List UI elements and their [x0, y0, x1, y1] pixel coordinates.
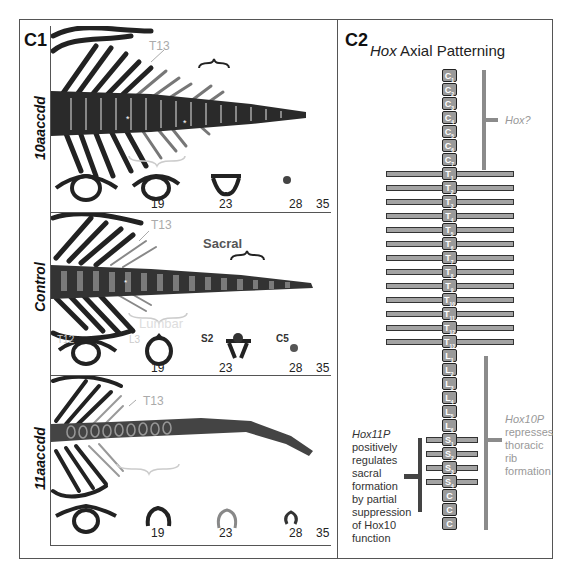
hox10p-annotation: Hox10P represses thoracic rib formation — [505, 413, 553, 478]
section-number: 28 — [289, 361, 302, 375]
vertebra-cervical: C1 — [442, 69, 457, 82]
label-lumbar: Lumbar — [139, 316, 183, 331]
vertebra-cervical: C5 — [442, 125, 457, 138]
vertebra-caudal: C — [442, 489, 457, 502]
hox11p-line: function — [352, 532, 411, 545]
genotype-label-11aaccdd: 11aaccdd — [32, 427, 48, 490]
section-number: 35 — [316, 197, 329, 211]
vertebra-thoracic: T8 — [442, 265, 457, 278]
vertebra-cervical: C4 — [442, 111, 457, 124]
label-t12: T12 — [57, 334, 74, 345]
skeleton-image-11aaccdd — [51, 376, 332, 546]
section-number: 23 — [219, 526, 232, 540]
label-sacral: Sacral — [203, 236, 242, 251]
hox11p-annotation: Hox11P positively regulates sacral forma… — [352, 428, 411, 545]
section-number: 35 — [316, 526, 329, 540]
hox11p-line: sacral — [352, 467, 411, 480]
diagram-title: Hox Axial Patterning — [370, 42, 505, 59]
section-number: 19 — [151, 526, 164, 540]
title-rest: Axial Patterning — [397, 42, 505, 59]
hox10p-line: represses — [505, 426, 553, 439]
vertebra-thoracic: T4 — [442, 209, 457, 222]
vertebra-lumbar: L3 — [442, 377, 457, 390]
hox10p-line: Hox10P — [505, 413, 553, 426]
vertebra-cervical: C2 — [442, 83, 457, 96]
vertebra-cervical: C3 — [442, 97, 457, 110]
svg-text:*: * — [183, 118, 187, 128]
vertebra-lumbar: L1 — [442, 349, 457, 362]
hox10p-line: rib — [505, 452, 553, 465]
panel-label-c2: C2 — [345, 30, 368, 51]
hox11p-line: suppression — [352, 506, 411, 519]
vertebra-thoracic: T10 — [442, 293, 457, 306]
vertebra-thoracic: T1 — [442, 167, 457, 180]
section-number: 28 — [289, 197, 302, 211]
genotype-label-control: Control — [32, 262, 48, 312]
vertebra-caudal: C — [442, 517, 457, 530]
label-t13: T13 — [151, 218, 172, 232]
vertebra-thoracic: T7 — [442, 251, 457, 264]
vertebra-lumbar: L5 — [442, 405, 457, 418]
vertebra-lumbar: L2 — [442, 363, 457, 376]
c1-panel-10aaccdd: * * T13 19 23 28 35 — [50, 26, 331, 213]
vertebra-thoracic: T9 — [442, 279, 457, 292]
vertebra-thoracic: T12 — [442, 321, 457, 334]
vertebra-sacral: S3 — [442, 461, 457, 474]
vertebra-thoracic: T13 — [442, 335, 457, 348]
hox11p-line: of Hox10 — [352, 519, 411, 532]
label-s2: S2 — [201, 333, 213, 344]
skeleton-image-control: * — [51, 213, 332, 376]
vertebra-cervical: C6 — [442, 139, 457, 152]
section-number: 19 — [151, 361, 164, 375]
hox11p-line: regulates — [352, 454, 411, 467]
c1-panel-control: * T13 Sacral Lumbar T12 L3 S2 C5 19 23 2… — [50, 213, 331, 376]
c1-panel-11aaccdd: T13 19 23 28 35 — [50, 376, 331, 546]
hox10p-tick — [486, 438, 502, 442]
hox11p-line: formation — [352, 480, 411, 493]
label-c5: C5 — [276, 333, 289, 344]
vertebra-lumbar: L6 — [442, 419, 457, 432]
vertebra-sacral: S2 — [442, 447, 457, 460]
vertebra-thoracic: T5 — [442, 223, 457, 236]
hox10p-bar — [484, 356, 488, 530]
svg-text:*: * — [124, 278, 127, 287]
hox11p-line: Hox11P — [352, 428, 411, 441]
vertebra-cervical: C7 — [442, 153, 457, 166]
vertebra-caudal: C — [442, 503, 457, 516]
panel-label-c1: C1 — [24, 30, 47, 51]
vertebra-thoracic: T3 — [442, 195, 457, 208]
section-number: 35 — [316, 361, 329, 375]
vertebra-thoracic: T11 — [442, 307, 457, 320]
hox10p-line: thoracic — [505, 439, 553, 452]
vertebra-thoracic: T2 — [442, 181, 457, 194]
skeleton-image-10aaccdd: * * — [51, 26, 332, 213]
section-number: 23 — [219, 197, 232, 211]
section-number: 28 — [289, 526, 302, 540]
hox10p-line: formation — [505, 465, 553, 478]
hox-unknown-tick — [484, 118, 498, 122]
svg-text:*: * — [126, 114, 130, 124]
label-t13: T13 — [149, 39, 170, 53]
genotype-label-10aaccdd: 10aaccdd — [32, 96, 48, 160]
hox11p-line: positively — [352, 441, 411, 454]
hox-unknown-label: Hox? — [505, 114, 531, 126]
hox11p-line: by partial — [352, 493, 411, 506]
vertebra-sacral: S1 — [442, 433, 457, 446]
label-t13: T13 — [143, 394, 164, 408]
vertebra-thoracic: T6 — [442, 237, 457, 250]
title-italic: Hox — [370, 42, 397, 59]
vertebra-lumbar: L4 — [442, 391, 457, 404]
vertebra-sacral: S4 — [442, 475, 457, 488]
section-number: 23 — [219, 361, 232, 375]
panel-divider — [337, 19, 338, 559]
label-l3: L3 — [129, 334, 140, 345]
section-number: 19 — [151, 197, 164, 211]
